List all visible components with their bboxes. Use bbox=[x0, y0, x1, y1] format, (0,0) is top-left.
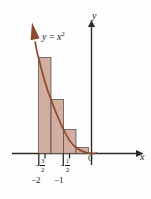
riemann-rectangles-group bbox=[39, 58, 89, 154]
fraction-numerator: 3 bbox=[40, 158, 44, 165]
fraction-numerator: 1 bbox=[65, 158, 69, 165]
function-label-equals: = bbox=[46, 31, 57, 42]
y-axis-arrowhead bbox=[88, 20, 95, 27]
riemann-sum-diagram bbox=[0, 0, 151, 199]
fraction-three-halves: 32 bbox=[40, 158, 45, 173]
function-label-exponent: 2 bbox=[62, 30, 65, 37]
riemann-rect-1 bbox=[39, 58, 52, 154]
tick-label-neg-three-halves-minus: − bbox=[35, 162, 40, 170]
fraction-denominator: 2 bbox=[40, 167, 44, 174]
fraction-denominator: 2 bbox=[65, 167, 69, 174]
y-axis-group bbox=[88, 20, 95, 165]
figure-container: y x 0 y = x2 −32 −12 −2 −1 bbox=[0, 0, 151, 199]
x-axis-label: x bbox=[140, 152, 144, 162]
fraction-one-half: 12 bbox=[65, 158, 70, 173]
origin-label: 0 bbox=[88, 154, 93, 163]
tick-label-neg-one-half-minus: − bbox=[60, 162, 65, 170]
y-axis-label: y bbox=[92, 11, 96, 21]
tick-label-neg-one-half: −12 bbox=[60, 158, 70, 173]
tick-label-neg-three-halves: −32 bbox=[35, 158, 45, 173]
tick-label-neg-two: −2 bbox=[31, 176, 41, 185]
curve-arrowhead bbox=[31, 23, 40, 41]
tick-label-neg-one: −1 bbox=[54, 176, 64, 185]
function-label: y = x2 bbox=[42, 31, 65, 42]
